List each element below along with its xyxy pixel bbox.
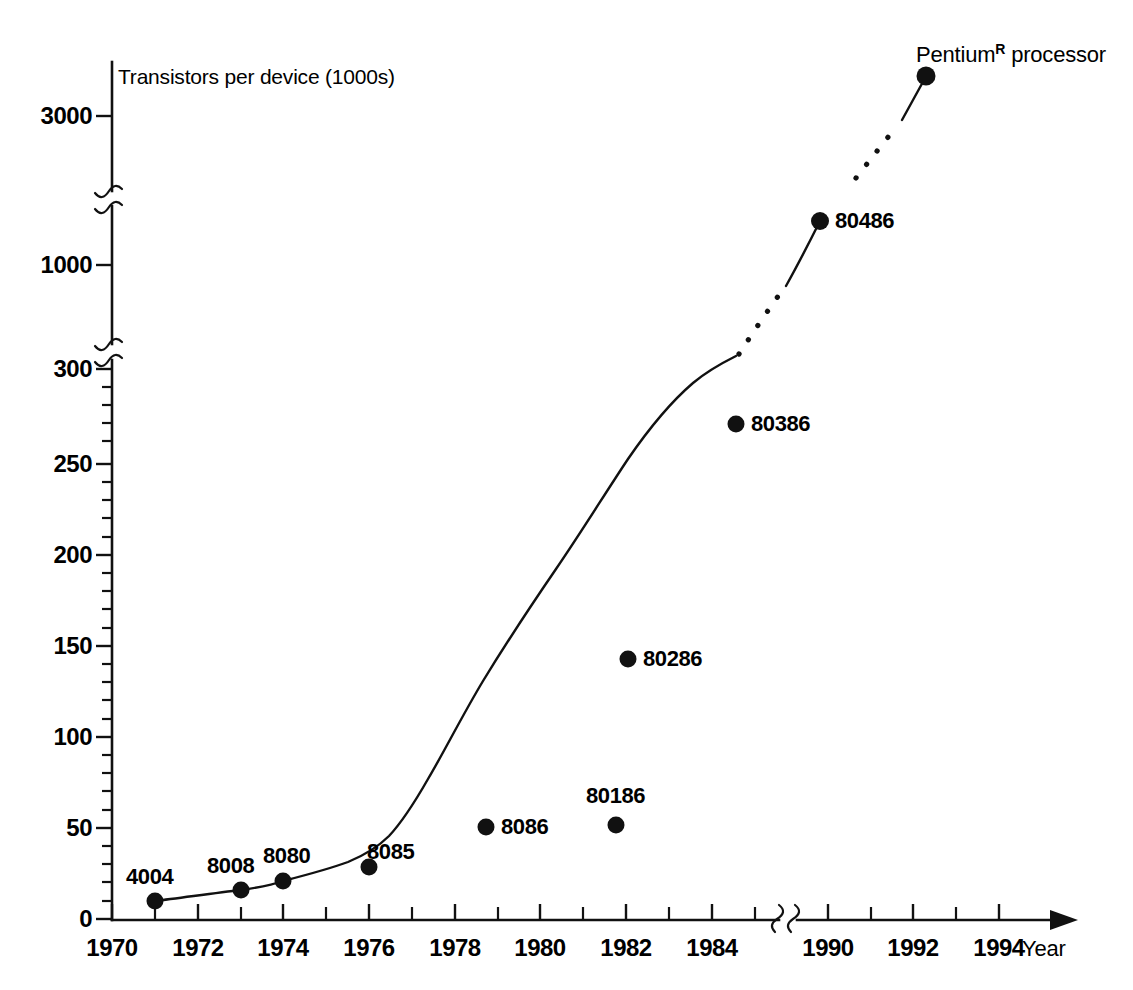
y-tick-label-100: 100 — [0, 725, 92, 749]
data-point-4004[interactable] — [147, 893, 164, 910]
x-tick-label-1982: 1982 — [576, 936, 676, 960]
y-tick-label-50: 50 — [0, 816, 92, 840]
y-axis-break-upper — [95, 186, 122, 213]
y-axis-title: Transistors per device (1000s) — [118, 66, 395, 87]
chart-figure: Transistors per device (1000s) 3000 1000… — [0, 0, 1133, 990]
pentium-name: Pentium — [916, 42, 995, 67]
data-point-8080[interactable] — [275, 873, 292, 890]
trend-curve-middle — [786, 221, 820, 286]
x-tick-label-1980: 1980 — [490, 936, 590, 960]
y-axis-break-lower — [95, 339, 122, 366]
data-point-8008[interactable] — [233, 882, 250, 899]
x-tick-label-1992: 1992 — [863, 936, 963, 960]
y-tick-label-250: 250 — [0, 452, 92, 476]
data-label-80186: 80186 — [586, 785, 645, 807]
y-tick-label-200: 200 — [0, 543, 92, 567]
x-axis-arrow-icon — [1050, 910, 1078, 930]
data-label-80486: 80486 — [835, 210, 894, 232]
data-point-80486[interactable] — [811, 212, 829, 230]
pentium-suffix: processor — [1005, 42, 1106, 67]
trend-curve-upper — [902, 80, 924, 120]
chart-canvas — [0, 0, 1133, 990]
y-tick-label-300: 300 — [0, 357, 92, 381]
data-label-pentium: PentiumR processor — [916, 44, 1106, 66]
data-label-80386: 80386 — [751, 413, 810, 435]
y-tick-label-1000: 1000 — [0, 253, 92, 277]
x-axis-break — [772, 905, 799, 932]
data-point-pentium[interactable] — [917, 67, 936, 86]
x-tick-label-1970: 1970 — [62, 936, 162, 960]
x-tick-label-1976: 1976 — [319, 936, 419, 960]
data-point-80286[interactable] — [620, 651, 637, 668]
data-label-8008: 8008 — [207, 855, 254, 877]
x-axis-title: Year — [1022, 938, 1066, 960]
data-label-8085: 8085 — [367, 841, 414, 863]
trend-curve-break-upper — [856, 126, 897, 178]
x-axis-major-ticks — [112, 904, 999, 920]
pentium-registered-mark: R — [995, 41, 1005, 57]
x-tick-label-1974: 1974 — [233, 936, 333, 960]
y-tick-label-0: 0 — [0, 907, 92, 931]
data-label-8086: 8086 — [501, 816, 548, 838]
y-tick-label-3000: 3000 — [0, 104, 92, 128]
x-axis-minor-ticks — [155, 907, 956, 920]
trend-curve-lower — [155, 356, 736, 901]
data-label-8080: 8080 — [263, 845, 310, 867]
data-label-80286: 80286 — [643, 648, 702, 670]
data-label-4004: 4004 — [126, 866, 173, 888]
x-tick-label-1984: 1984 — [662, 936, 762, 960]
y-tick-label-150: 150 — [0, 634, 92, 658]
data-point-80386[interactable] — [728, 416, 745, 433]
data-point-8086[interactable] — [478, 819, 495, 836]
data-point-80186[interactable] — [608, 817, 625, 834]
trend-curve-break-lower — [739, 288, 784, 354]
